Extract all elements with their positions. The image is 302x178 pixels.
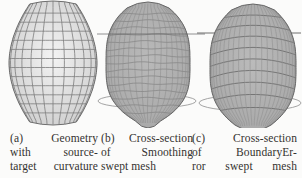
mesh-figure-a bbox=[6, 0, 102, 128]
mesh-figure-b bbox=[96, 0, 206, 128]
caption-line: (a) Geometry bbox=[10, 131, 98, 145]
caption-line: target curvature bbox=[10, 159, 98, 173]
caption-b: (b) Cross-section of Smoothing swept mes… bbox=[101, 131, 193, 173]
caption-line: (c) Cross-section bbox=[192, 131, 297, 145]
caption-line: (b) Cross-section bbox=[101, 131, 193, 145]
mesh-figure-c bbox=[196, 0, 302, 128]
caption-line: of Smoothing bbox=[101, 145, 193, 159]
caption-line: of BoundaryEr- bbox=[192, 145, 297, 159]
caption-line: swept mesh bbox=[101, 159, 193, 173]
caption-line: with source- bbox=[10, 145, 98, 159]
caption-c: (c) Cross-section of BoundaryEr- ror swe… bbox=[192, 131, 297, 173]
caption-a: (a) Geometry with source- target curvatu… bbox=[10, 131, 98, 173]
paper-figure: (a) Geometry with source- target curvatu… bbox=[0, 0, 302, 178]
caption-line: ror swept mesh bbox=[192, 159, 297, 173]
